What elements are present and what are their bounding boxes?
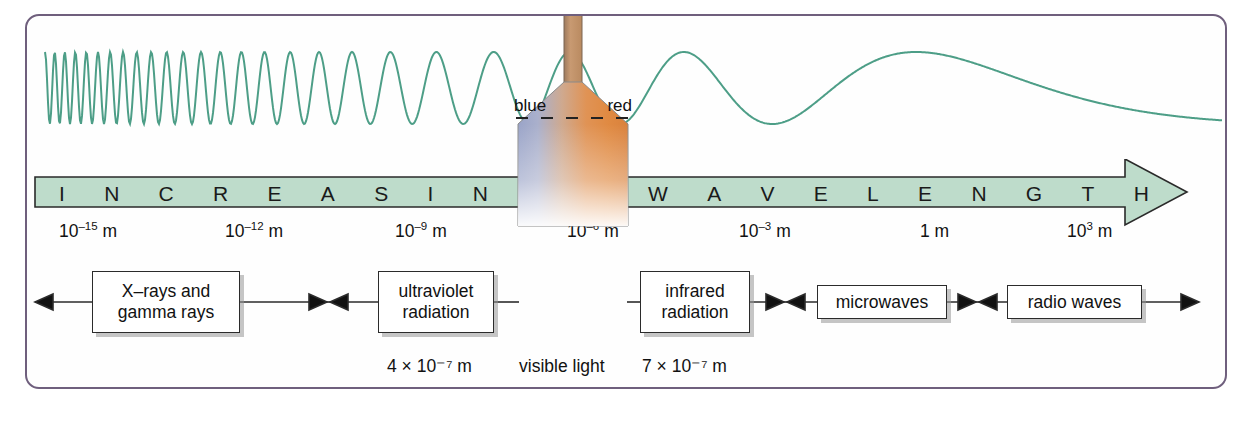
arrow-letter-a-12: A (707, 182, 721, 206)
band-box-radio-waves[interactable]: radio waves (1007, 285, 1142, 319)
band-label-line2: gamma rays (118, 302, 214, 323)
arrow-letter-t-19: T (1082, 182, 1095, 206)
red-label: red (607, 96, 632, 116)
tick-1 (516, 117, 528, 119)
visible-light-group: blue red (482, 16, 662, 376)
arrow-letter-s-6: S (374, 182, 388, 206)
visible-light-caption: visible light (519, 356, 605, 377)
arrow-letter-e-14: E (814, 182, 828, 206)
arrow-letter-i-0: I (59, 182, 65, 206)
scale-tick-5: 1 m (920, 221, 949, 242)
visible-light-color-labels: blue red (514, 96, 632, 116)
visible-lower-bound: 4 × 10⁻⁷ m (387, 356, 472, 377)
arrow-letter-a-5: A (321, 182, 335, 206)
spectrum-figure: INCREASINGWAVELENGTH 10–15 m10–12 m10–9 … (25, 14, 1227, 389)
arrow-letter-r-3: R (213, 182, 228, 206)
band-label-line1: infrared (665, 281, 724, 302)
visible-upper-bound: 7 × 10⁻⁷ m (642, 356, 727, 377)
band-label-line1: X–rays and (122, 281, 211, 302)
band-label-line1: ultraviolet (399, 281, 474, 302)
arrow-letter-g-18: G (1026, 182, 1042, 206)
visible-light-ticks (516, 117, 628, 119)
arrow-letter-h-20: H (1134, 182, 1149, 206)
band-box-ultraviolet-radiation[interactable]: ultravioletradiation (378, 271, 494, 333)
blue-label: blue (514, 96, 546, 116)
scale-tick-4: 10–3 m (739, 221, 791, 242)
tick-3 (566, 117, 578, 119)
arrow-letter-v-13: V (760, 182, 774, 206)
visible-light-captions: 4 × 10⁻⁷ mvisible light7 × 10⁻⁷ m (27, 356, 1229, 382)
scale-tick-0: 10–15 m (59, 221, 117, 242)
arrow-letter-l-15: L (867, 182, 879, 206)
band-label-line1: microwaves (836, 292, 928, 313)
arrow-letter-e-4: E (268, 182, 282, 206)
tick-5 (616, 117, 628, 119)
arrow-letter-c-2: C (159, 182, 174, 206)
visible-light-funnel-shape (482, 16, 662, 376)
arrow-letter-n-17: N (971, 182, 986, 206)
arrow-letter-i-7: I (427, 182, 433, 206)
scale-tick-2: 10–9 m (395, 221, 447, 242)
tick-2 (541, 117, 553, 119)
scale-tick-6: 103 m (1067, 221, 1112, 242)
arrow-letter-n-1: N (104, 182, 119, 206)
scale-tick-1: 10–12 m (225, 221, 283, 242)
arrow-letter-e-16: E (918, 182, 932, 206)
band-label-line1: radio waves (1028, 292, 1121, 313)
tick-4 (591, 117, 603, 119)
band-label-line2: radiation (661, 302, 728, 323)
band-box-x-rays-and-gamma-rays[interactable]: X–rays andgamma rays (92, 271, 240, 333)
band-box-microwaves[interactable]: microwaves (817, 285, 947, 319)
band-label-line2: radiation (402, 302, 469, 323)
